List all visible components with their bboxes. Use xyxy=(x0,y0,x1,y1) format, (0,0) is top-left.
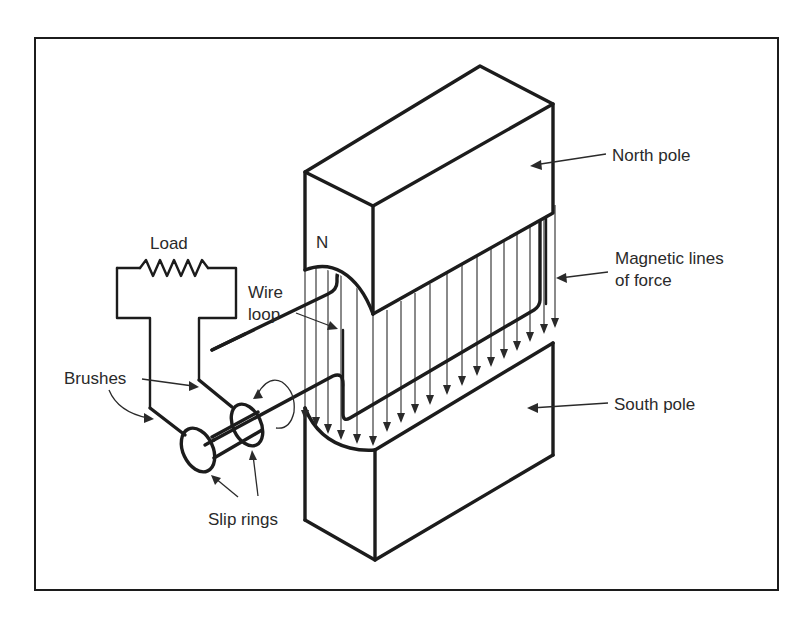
svg-text:Wire: Wire xyxy=(248,283,283,302)
svg-text:North pole: North pole xyxy=(612,146,690,165)
svg-text:Magnetic lines: Magnetic lines xyxy=(615,249,724,268)
north-pole-magnet: N xyxy=(305,66,553,314)
svg-text:South pole: South pole xyxy=(614,395,695,414)
svg-text:Brushes: Brushes xyxy=(64,369,126,388)
svg-text:Slip rings: Slip rings xyxy=(208,510,278,529)
label-load: Load xyxy=(150,234,188,253)
generator-diagram: N North pole xyxy=(0,0,808,618)
svg-text:loop: loop xyxy=(248,305,280,324)
label-magnetic-lines: Magnetic lines of force xyxy=(556,249,724,290)
pole-marker-n: N xyxy=(316,233,328,252)
load-resistor-icon xyxy=(140,260,208,276)
label-wire-loop: Wire loop xyxy=(248,283,338,330)
brush-rear xyxy=(199,380,232,407)
brush-front xyxy=(150,408,185,435)
svg-text:of force: of force xyxy=(615,271,672,290)
label-slip-rings: Slip rings xyxy=(208,450,278,529)
label-brushes: Brushes xyxy=(64,369,199,423)
